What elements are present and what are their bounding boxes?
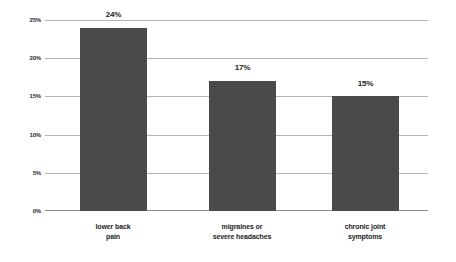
category-label: chronic joint symptoms (305, 222, 425, 242)
bar-value-label: 15% (332, 80, 399, 88)
category-label-line: chronic joint (305, 222, 425, 232)
plot-area (45, 20, 428, 211)
y-axis-tick-label: 15% (7, 93, 41, 99)
bar[interactable] (332, 96, 399, 211)
bar-value-label: 24% (80, 11, 147, 19)
y-axis-tick-label: 5% (7, 170, 41, 176)
y-axis-tick-label: 0% (7, 208, 41, 214)
y-axis-tick-label: 10% (7, 132, 41, 138)
y-axis-tick-label: 25% (7, 17, 41, 23)
category-label-line: symptoms (305, 232, 425, 242)
bar-value-label: 17% (209, 64, 276, 72)
category-label-line: migraines or (182, 222, 302, 232)
y-axis-tick-label: 20% (7, 55, 41, 61)
gridline (45, 20, 428, 21)
bar[interactable] (209, 81, 276, 211)
bar-chart: 25% 20% 15% 10% 5% 0% 24% 17% 15% lower … (0, 0, 456, 262)
bar[interactable] (80, 28, 147, 211)
category-label: lower back pain (53, 222, 173, 242)
category-label-line: lower back (53, 222, 173, 232)
y-axis: 25% 20% 15% 10% 5% 0% (0, 20, 41, 211)
category-label-line: pain (53, 232, 173, 242)
category-label: migraines or severe headaches (182, 222, 302, 242)
category-label-line: severe headaches (182, 232, 302, 242)
